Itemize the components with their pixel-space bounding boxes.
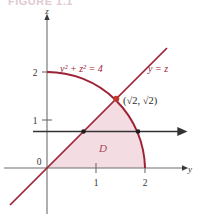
sweep-left-endpoint-dot (81, 129, 86, 134)
region-label-d: D (98, 142, 107, 154)
line-equation-label: y = z (147, 63, 168, 74)
intersection-point-label: (√2, √2) (123, 95, 158, 107)
coordinate-plot: y z 0 1 2 1 2 y² + z² = 4 y = z (√2, √2)… (0, 0, 205, 219)
figure-container: FIGURE 1.1 (0, 0, 205, 219)
y-tick-label-1: 1 (94, 178, 99, 188)
z-tick-label-2: 2 (33, 68, 38, 78)
region-d-fill (47, 99, 145, 168)
circle-equation-label: y² + z² = 4 (59, 63, 103, 74)
z-axis-label: z (44, 6, 49, 16)
sweep-right-endpoint-dot (136, 129, 141, 134)
intersection-point-marker (113, 96, 119, 102)
y-tick-label-2: 2 (143, 178, 148, 188)
origin-label: 0 (37, 157, 42, 167)
z-tick-label-1: 1 (33, 116, 38, 126)
y-axis-label: y (187, 164, 192, 174)
